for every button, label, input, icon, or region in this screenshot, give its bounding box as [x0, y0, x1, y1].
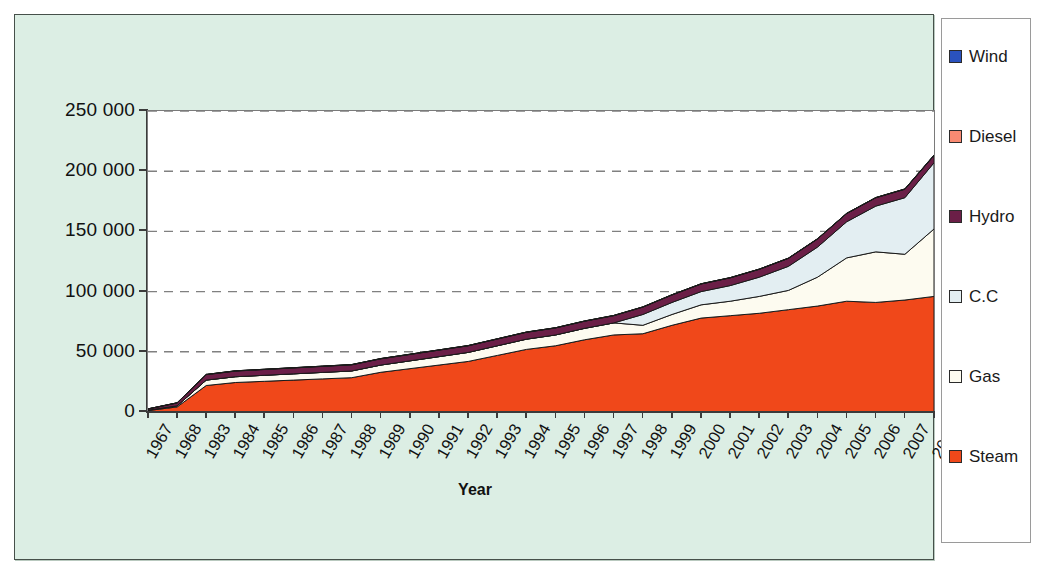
x-axis-tick: [351, 411, 353, 418]
legend-label: Gas: [969, 368, 1000, 385]
x-axis-tick: [904, 411, 906, 418]
legend-swatch-icon: [949, 290, 962, 303]
x-axis-tick: [817, 411, 819, 418]
legend-swatch-icon: [949, 210, 962, 223]
legend-label: Diesel: [969, 128, 1016, 145]
chart-legend: WindDieselHydroC.CGasSteam: [941, 18, 1031, 543]
legend-item-hydro[interactable]: Hydro: [949, 207, 1014, 225]
legend-item-gas[interactable]: Gas: [949, 368, 1000, 386]
x-axis-tick: [700, 411, 702, 418]
x-axis-tick: [729, 411, 731, 418]
x-axis-tick: [467, 411, 469, 418]
legend-label: Hydro: [969, 208, 1014, 225]
x-axis-tick: [671, 411, 673, 418]
x-axis-tick: [525, 411, 527, 418]
x-axis-tick: [758, 411, 760, 418]
x-axis-tick: [147, 411, 149, 418]
x-axis-tick: [380, 411, 382, 418]
x-axis-tick: [293, 411, 295, 418]
legend-item-wind[interactable]: Wind: [949, 47, 1008, 65]
x-axis-tick: [846, 411, 848, 418]
x-axis-title: Year: [15, 481, 935, 499]
legend-label: Steam: [969, 448, 1018, 465]
legend-item-diesel[interactable]: Diesel: [949, 127, 1016, 145]
x-axis-tick: [642, 411, 644, 418]
x-axis-labels: 1967196819831984198519861987198819891990…: [15, 15, 935, 561]
x-axis-tick: [787, 411, 789, 418]
x-axis-tick: [438, 411, 440, 418]
legend-label: C.C: [969, 288, 998, 305]
x-axis-tick: [205, 411, 207, 418]
x-axis-tick: [263, 411, 265, 418]
legend-swatch-icon: [949, 130, 962, 143]
x-axis-tick: [584, 411, 586, 418]
x-axis-tick: [322, 411, 324, 418]
x-axis-tick: [409, 411, 411, 418]
x-axis-tick: [176, 411, 178, 418]
legend-swatch-icon: [949, 450, 962, 463]
legend-item-c-c[interactable]: C.C: [949, 287, 998, 305]
legend-label: Wind: [969, 48, 1008, 65]
x-axis-tick: [875, 411, 877, 418]
chart-page: 050 000100 000150 000200 000250 000 1967…: [0, 0, 1040, 579]
legend-item-steam[interactable]: Steam: [949, 448, 1018, 466]
legend-swatch-icon: [949, 370, 962, 383]
x-axis-tick: [933, 411, 935, 418]
chart-frame: 050 000100 000150 000200 000250 000 1967…: [14, 14, 934, 560]
legend-swatch-icon: [949, 50, 962, 63]
x-axis-tick: [613, 411, 615, 418]
x-axis-tick: [555, 411, 557, 418]
x-axis-tick: [496, 411, 498, 418]
x-axis-tick: [234, 411, 236, 418]
